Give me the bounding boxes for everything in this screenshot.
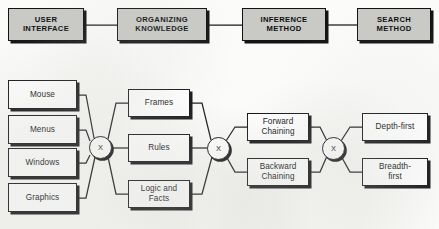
item-box-depth-first[interactable]: Depth-first (362, 113, 428, 141)
junction-organizing-knowledge[interactable]: X (207, 137, 230, 160)
item-label-logic-and-facts: Logic and Facts (139, 184, 179, 203)
junction-label: X (98, 143, 103, 152)
header-line-2: KNOWLEDGE (135, 24, 188, 33)
link-menus-to-j1 (77, 130, 90, 141)
item-line-2: Chaining (261, 127, 294, 136)
item-line-1: Logic and (141, 184, 177, 193)
item-label-windows: Windows (24, 158, 62, 168)
item-box-windows[interactable]: Windows (8, 148, 77, 177)
item-line-2: first (388, 172, 402, 181)
link-j1-to-logicfacts (108, 157, 128, 194)
header-label-search-method: SEARCH METHOD (374, 16, 413, 34)
junction-label: X (331, 144, 336, 153)
link-logicfacts-to-j2 (190, 157, 212, 194)
item-line-2: Facts (149, 194, 170, 203)
item-box-logic-and-facts[interactable]: Logic and Facts (128, 180, 190, 208)
item-box-frames[interactable]: Frames (128, 89, 190, 117)
item-label-menus: Menus (28, 125, 57, 135)
item-label-depth-first: Depth-first (374, 122, 417, 132)
link-j2-to-backward (226, 156, 247, 172)
header-label-organizing-knowledge: ORGANIZING KNOWLEDGE (133, 16, 190, 34)
header-label-user-interface: USER INTERFACE (21, 16, 71, 34)
item-box-graphics[interactable]: Graphics (8, 183, 77, 212)
item-label-frames: Frames (143, 98, 175, 108)
link-windows-to-j1 (77, 155, 90, 163)
item-label-forward-chaining: Forward Chaining (259, 117, 296, 136)
header-line-1: INFERENCE (260, 15, 307, 24)
item-label-backward-chaining: Backward Chaining (258, 162, 299, 181)
header-line-1: USER (35, 15, 58, 24)
item-box-mouse[interactable]: Mouse (8, 80, 77, 109)
item-box-backward-chaining[interactable]: Backward Chaining (247, 158, 309, 186)
header-box-user-interface[interactable]: USER INTERFACE (8, 8, 84, 41)
item-box-forward-chaining[interactable]: Forward Chaining (247, 113, 309, 141)
header-line-2: INTERFACE (23, 24, 69, 33)
item-box-rules[interactable]: Rules (128, 134, 190, 162)
item-box-breadth-first[interactable]: Breadth- first (362, 158, 428, 186)
item-line-1: Breadth- (379, 162, 411, 171)
item-line-1: Forward (263, 117, 294, 126)
junction-user-interface[interactable]: X (89, 136, 112, 159)
junction-label: X (216, 144, 221, 153)
header-label-inference-method: INFERENCE METHOD (258, 16, 309, 34)
item-line-1: Backward (260, 162, 297, 171)
link-j1-to-frames (108, 103, 128, 139)
item-label-mouse: Mouse (28, 90, 57, 100)
link-forward-to-j3 (309, 127, 327, 141)
link-j2-to-forward (226, 127, 247, 141)
item-line-2: Chaining (261, 172, 294, 181)
link-mouse-to-j1 (77, 95, 94, 138)
item-label-rules: Rules (146, 143, 171, 153)
item-label-breadth-first: Breadth- first (377, 162, 413, 181)
link-backward-to-j3 (309, 156, 327, 172)
link-j3-to-breadthfirst (341, 156, 362, 172)
header-line-1: SEARCH (377, 15, 411, 24)
header-line-2: METHOD (266, 24, 301, 33)
item-label-graphics: Graphics (24, 193, 62, 203)
junction-inference-method[interactable]: X (322, 137, 345, 160)
figure-canvas: USER INTERFACE ORGANIZING KNOWLEDGE INFE… (0, 0, 439, 229)
link-frames-to-j2 (190, 103, 211, 140)
header-line-1: ORGANIZING (136, 15, 188, 24)
header-box-organizing-knowledge[interactable]: ORGANIZING KNOWLEDGE (117, 8, 207, 41)
header-box-inference-method[interactable]: INFERENCE METHOD (242, 8, 326, 41)
header-box-search-method[interactable]: SEARCH METHOD (357, 8, 431, 41)
header-line-2: METHOD (376, 24, 411, 33)
item-box-menus[interactable]: Menus (8, 115, 77, 144)
link-j3-to-depthfirst (341, 127, 362, 141)
